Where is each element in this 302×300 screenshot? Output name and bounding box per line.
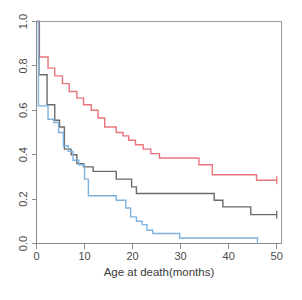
survival-plot-figure: 0.00.20.40.60.81.0 01020304050 Age at de… [0,0,302,300]
y-tick-label: 0.2 [17,191,29,206]
y-tick-label: 0.4 [17,147,29,162]
x-tick-label: 40 [223,250,235,262]
footer-ghost-text [0,292,302,300]
x-axis-title: Age at death(months) [104,266,215,278]
x-tick-label: 20 [126,250,138,262]
x-tick-label: 0 [33,250,39,262]
y-tick-label: 0.0 [17,236,29,251]
y-tick-label: 0.8 [17,58,29,73]
x-tick-label: 50 [271,250,283,262]
y-tick-label: 1.0 [17,14,29,29]
kaplan-meier-chart: 0.00.20.40.60.81.0 01020304050 Age at de… [0,0,302,300]
x-tick-label: 10 [78,250,90,262]
y-tick-label: 0.6 [17,103,29,118]
x-tick-label: 30 [174,250,186,262]
